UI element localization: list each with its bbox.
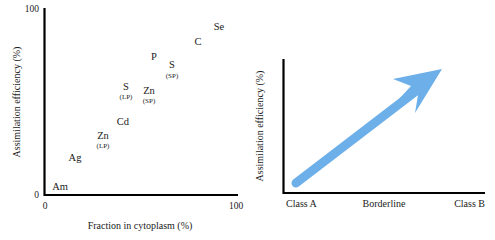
panel-left-scatter: 100 0 0 100 Assimilation efficiency (%) … xyxy=(0,0,250,240)
category-label-class-a: Class A xyxy=(286,198,318,209)
left-x-axis-title: Fraction in cytoplasm (%) xyxy=(88,220,193,232)
data-label-ag: Ag xyxy=(69,152,83,163)
data-sublabel-zn-sp: (SP) xyxy=(143,97,156,105)
figure-root: 100 0 0 100 Assimilation efficiency (%) … xyxy=(0,0,495,240)
left-x-tick-left: 0 xyxy=(43,201,48,211)
trend-arrow-icon xyxy=(296,69,442,183)
data-label-p: P xyxy=(151,51,157,62)
data-label-s-lp: S xyxy=(123,81,129,92)
right-y-axis-title: Assimilation efficiency (%) xyxy=(254,71,266,182)
data-label-zn-lp: Zn xyxy=(97,130,109,141)
category-label-borderline: Borderline xyxy=(363,198,406,209)
panel-right-trend: Assimilation efficiency (%) Class A Bord… xyxy=(245,0,495,240)
data-label-zn-sp: Zn xyxy=(143,85,155,96)
left-y-axis-title: Assimilation efficiency (%) xyxy=(11,47,23,158)
data-label-s-sp: S xyxy=(169,59,175,70)
data-sublabel-zn-lp: (LP) xyxy=(97,142,111,150)
category-label-class-b: Class B xyxy=(454,198,485,209)
left-y-tick-bottom: 0 xyxy=(34,190,39,200)
left-x-tick-right: 100 xyxy=(229,201,244,211)
data-label-cd: Cd xyxy=(117,116,130,127)
data-sublabel-s-sp: (SP) xyxy=(166,72,179,80)
left-y-tick-top: 100 xyxy=(25,4,40,14)
data-label-am: Am xyxy=(52,181,68,192)
data-label-se: Se xyxy=(214,21,225,32)
data-label-c: C xyxy=(194,36,201,47)
data-sublabel-s-lp: (LP) xyxy=(120,93,134,101)
left-data-labels: Am Ag Zn (LP) Cd S (LP) Zn (SP) P S (SP)… xyxy=(52,21,224,192)
